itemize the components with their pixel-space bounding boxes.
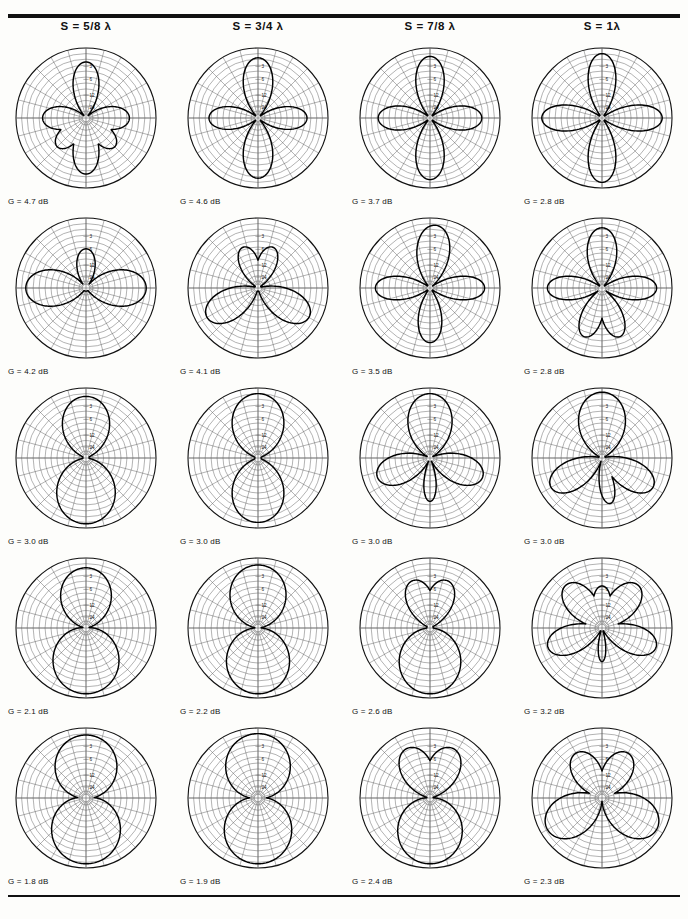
svg-text:3: 3 [89,234,92,239]
svg-text:24: 24 [261,785,267,790]
polar-plot-cell-r2-c3[interactable]: 361224G = 3.5 dB [344,210,516,380]
polar-plot-cell-r5-c4[interactable]: 361224G = 2.3 dB [516,720,688,890]
gain-label-r2-c3: G = 3.5 dB [352,367,392,376]
polar-plot-r1-c1: 361224 [10,42,162,194]
svg-text:12: 12 [89,93,95,98]
svg-text:24: 24 [433,445,439,450]
svg-text:12: 12 [261,603,267,608]
column-header-row: S = 5/8 λ S = 3/4 λ S = 7/8 λ S = 1λ [0,20,688,42]
polar-plot-r3-c4: 361224 [526,382,678,534]
svg-text:6: 6 [433,77,436,82]
svg-text:6: 6 [433,757,436,762]
svg-text:6: 6 [433,587,436,592]
svg-text:6: 6 [261,587,264,592]
polar-plot-cell-r5-c2[interactable]: 361224G = 1.9 dB [172,720,344,890]
svg-text:12: 12 [261,93,267,98]
svg-text:3: 3 [605,234,608,239]
polar-plot-cell-r3-c1[interactable]: 361224G = 3.0 dB [0,380,172,550]
polar-plot-cell-r4-c4[interactable]: 361224G = 3.2 dB [516,550,688,720]
svg-text:6: 6 [261,77,264,82]
svg-text:3: 3 [433,744,436,749]
polar-plot-cell-r4-c1[interactable]: 361224G = 2.1 dB [0,550,172,720]
polar-plot-r3-c1: 361224 [10,382,162,534]
gain-label-r4-c3: G = 2.6 dB [352,707,392,716]
svg-text:6: 6 [433,417,436,422]
svg-text:3: 3 [261,574,264,579]
gain-label-r2-c4: G = 2.8 dB [524,367,564,376]
gain-label-r4-c1: G = 2.1 dB [8,707,48,716]
polar-plot-cell-r5-c3[interactable]: 361224G = 2.4 dB [344,720,516,890]
polar-plot-r5-c3: 361224 [354,722,506,874]
svg-text:12: 12 [89,433,95,438]
polar-plot-r2-c3: 361224 [354,212,506,364]
svg-text:6: 6 [89,757,92,762]
svg-text:6: 6 [433,247,436,252]
svg-text:3: 3 [433,404,436,409]
svg-text:12: 12 [433,603,439,608]
polar-plot-cell-r4-c3[interactable]: 361224G = 2.6 dB [344,550,516,720]
svg-text:12: 12 [89,263,95,268]
polar-plot-cell-r2-c2[interactable]: 361224G = 4.1 dB [172,210,344,380]
gain-label-r4-c4: G = 3.2 dB [524,707,564,716]
polar-plot-cell-r1-c3[interactable]: 361224G = 3.7 dB [344,40,516,210]
svg-text:24: 24 [89,615,95,620]
svg-text:12: 12 [433,93,439,98]
polar-plot-r3-c2: 361224 [182,382,334,534]
polar-plot-grid: 361224G = 4.7 dB361224G = 4.6 dB361224G … [0,40,688,890]
svg-text:24: 24 [261,275,267,280]
svg-text:12: 12 [89,603,95,608]
gain-label-r4-c2: G = 2.2 dB [180,707,220,716]
svg-text:24: 24 [433,615,439,620]
polar-plot-r4-c2: 361224 [182,552,334,704]
gain-label-r1-c3: G = 3.7 dB [352,197,392,206]
svg-text:3: 3 [605,404,608,409]
polar-plot-cell-r1-c1[interactable]: 361224G = 4.7 dB [0,40,172,210]
gain-label-r5-c3: G = 2.4 dB [352,877,392,886]
svg-text:24: 24 [261,615,267,620]
gain-label-r2-c1: G = 4.2 dB [8,367,48,376]
polar-plot-r1-c4: 361224 [526,42,678,194]
svg-text:12: 12 [605,773,611,778]
polar-plot-cell-r2-c1[interactable]: 361224G = 4.2 dB [0,210,172,380]
gain-label-r2-c2: G = 4.1 dB [180,367,220,376]
gain-label-r3-c4: G = 3.0 dB [524,537,564,546]
gain-label-r3-c2: G = 3.0 dB [180,537,220,546]
polar-plot-r1-c3: 361224 [354,42,506,194]
svg-text:3: 3 [433,64,436,69]
svg-text:6: 6 [89,77,92,82]
polar-plot-cell-r3-c4[interactable]: 361224G = 3.0 dB [516,380,688,550]
polar-plot-cell-r5-c1[interactable]: 361224G = 1.8 dB [0,720,172,890]
polar-plot-cell-r1-c2[interactable]: 361224G = 4.6 dB [172,40,344,210]
svg-text:24: 24 [605,785,611,790]
plot-row-4: 361224G = 2.1 dB361224G = 2.2 dB361224G … [0,550,688,720]
svg-text:24: 24 [89,445,95,450]
svg-text:6: 6 [605,247,608,252]
svg-text:6: 6 [605,417,608,422]
polar-plot-cell-r1-c4[interactable]: 361224G = 2.8 dB [516,40,688,210]
svg-text:3: 3 [605,64,608,69]
svg-text:6: 6 [89,587,92,592]
svg-text:3: 3 [605,744,608,749]
svg-text:3: 3 [261,64,264,69]
svg-text:3: 3 [261,404,264,409]
svg-text:12: 12 [605,603,611,608]
plot-row-2: 361224G = 4.2 dB361224G = 4.1 dB361224G … [0,210,688,380]
gain-label-r1-c2: G = 4.6 dB [180,197,220,206]
gain-label-r1-c4: G = 2.8 dB [524,197,564,206]
polar-plot-cell-r3-c3[interactable]: 361224G = 3.0 dB [344,380,516,550]
figure-sheet: S = 5/8 λ S = 3/4 λ S = 7/8 λ S = 1λ 361… [0,0,688,919]
polar-plot-cell-r3-c2[interactable]: 361224G = 3.0 dB [172,380,344,550]
svg-text:12: 12 [605,433,611,438]
svg-text:6: 6 [605,77,608,82]
svg-text:3: 3 [89,404,92,409]
gain-label-r5-c1: G = 1.8 dB [8,877,48,886]
polar-plot-r2-c2: 361224 [182,212,334,364]
svg-text:12: 12 [261,433,267,438]
polar-plot-cell-r4-c2[interactable]: 361224G = 2.2 dB [172,550,344,720]
plot-row-3: 361224G = 3.0 dB361224G = 3.0 dB361224G … [0,380,688,550]
polar-plot-cell-r2-c4[interactable]: 361224G = 2.8 dB [516,210,688,380]
svg-text:6: 6 [89,417,92,422]
polar-plot-r5-c2: 361224 [182,722,334,874]
polar-plot-r5-c4: 361224 [526,722,678,874]
svg-text:3: 3 [89,744,92,749]
